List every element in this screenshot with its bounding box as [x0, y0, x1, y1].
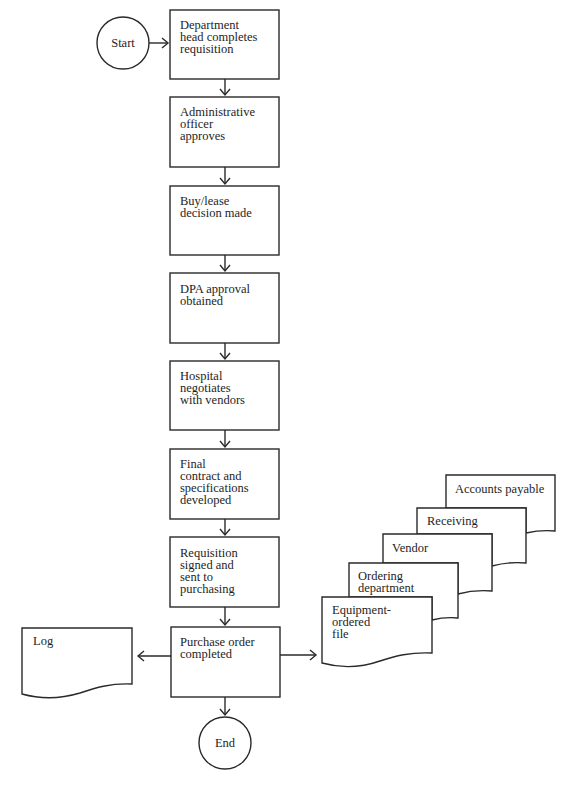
- copy-label-equipment-ordered-file: Equipment- ordered file: [332, 604, 391, 640]
- arrow-step1-to-step2: [220, 79, 230, 95]
- step-label-5: Hospital negotiates with vendors: [180, 370, 245, 406]
- arrow-step3-to-step4: [220, 255, 230, 271]
- step-label-3: Buy/lease decision made: [180, 195, 252, 219]
- step-label-2: Administrative officer approves: [180, 106, 255, 142]
- copy-label-ordering-department: Ordering department: [358, 570, 414, 594]
- start-label: Start: [97, 37, 149, 49]
- arrow-step8-to-log: [138, 651, 171, 661]
- arrow-step8-to-copies: [280, 650, 316, 660]
- arrow-step6-to-step7: [220, 519, 230, 535]
- end-label: End: [199, 737, 251, 749]
- copy-label-vendor: Vendor: [392, 542, 428, 554]
- step-label-8: Purchase order completed: [180, 636, 255, 660]
- arrow-step2-to-step3: [220, 167, 230, 184]
- step-label-6: Final contract and specifications develo…: [180, 458, 249, 506]
- arrow-step8-to-end: [220, 697, 230, 715]
- arrow-step5-to-step6: [220, 430, 230, 447]
- step-label-1: Department head completes requisition: [180, 19, 257, 55]
- step-label-7: Requisition signed and sent to purchasin…: [180, 547, 238, 595]
- arrow-start-to-step1: [149, 38, 168, 48]
- log-label: Log: [33, 635, 53, 647]
- copy-label-receiving: Receiving: [427, 515, 478, 527]
- arrow-step7-to-step8: [220, 607, 230, 625]
- step-label-4: DPA approval obtained: [180, 283, 250, 307]
- flowchart-canvas: [0, 0, 576, 802]
- arrow-step4-to-step5: [220, 343, 230, 359]
- copy-label-accounts-payable: Accounts payable: [455, 483, 544, 495]
